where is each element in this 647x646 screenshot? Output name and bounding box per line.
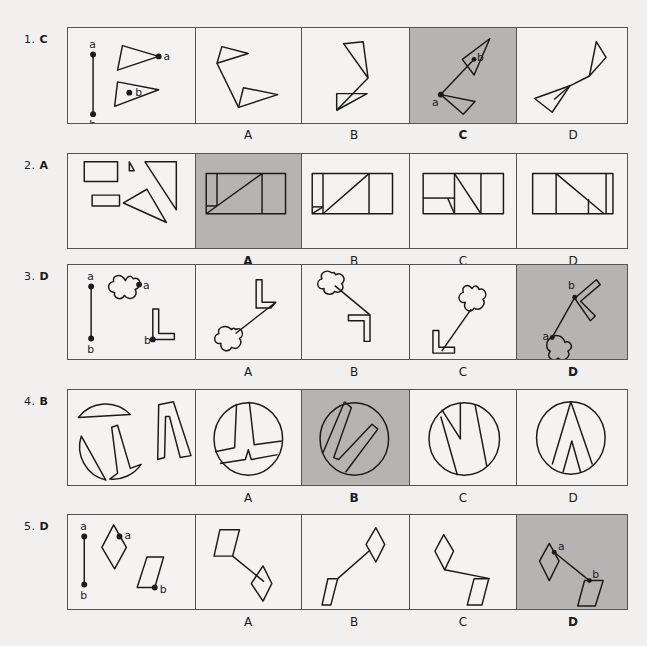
- option-figure-icon: b a: [517, 265, 627, 359]
- svg-text:b: b: [568, 279, 575, 292]
- option-b[interactable]: [302, 154, 410, 248]
- option-label-a[interactable]: A: [228, 615, 268, 629]
- question-2-row: [67, 153, 628, 249]
- option-label-c[interactable]: C: [443, 491, 483, 505]
- svg-text:b: b: [593, 568, 600, 581]
- option-figure-icon: [196, 515, 302, 609]
- question-number: 2.: [24, 159, 36, 172]
- svg-text:a: a: [164, 50, 171, 63]
- svg-text:b: b: [89, 118, 96, 123]
- option-figure-icon: [410, 265, 517, 359]
- question-2-prompt: [68, 154, 196, 248]
- option-a[interactable]: [196, 265, 303, 359]
- question-answer: D: [40, 520, 50, 533]
- question-answer: A: [40, 159, 49, 172]
- option-figure-icon: [302, 390, 409, 485]
- question-2-label: 2. A: [24, 159, 49, 172]
- option-label-d[interactable]: D: [553, 615, 593, 629]
- question-4-prompt: [68, 390, 196, 485]
- option-label-a[interactable]: A: [228, 491, 268, 505]
- svg-text:a: a: [87, 270, 94, 283]
- option-label-c[interactable]: C: [443, 615, 483, 629]
- option-figure-icon: [302, 265, 409, 359]
- question-answer: B: [40, 395, 49, 408]
- option-figure-icon: [196, 28, 302, 123]
- option-b[interactable]: [302, 515, 410, 609]
- option-label-c[interactable]: C: [443, 128, 483, 142]
- option-c[interactable]: [410, 154, 518, 248]
- option-b[interactable]: [302, 390, 410, 485]
- question-answer: D: [40, 270, 50, 283]
- question-5-label: 5. D: [24, 520, 49, 533]
- option-figure-icon: b a: [410, 28, 517, 123]
- question-answer: C: [40, 33, 49, 46]
- option-d[interactable]: [517, 154, 627, 248]
- question-3-row: a b a b: [67, 264, 628, 360]
- option-label-d[interactable]: D: [553, 365, 593, 379]
- question-5-row: a b a b: [67, 514, 628, 610]
- option-a[interactable]: [196, 154, 303, 248]
- option-figure-icon: [302, 515, 409, 609]
- question-4-label: 4. B: [24, 395, 48, 408]
- option-figure-icon: [410, 390, 517, 485]
- svg-text:a: a: [80, 520, 87, 533]
- question-number: 5.: [24, 520, 36, 533]
- option-figure-icon: a b: [517, 515, 627, 609]
- prompt-figure-icon: a b a b: [68, 265, 195, 359]
- option-label-b[interactable]: B: [334, 365, 374, 379]
- option-figure-icon: [196, 154, 302, 248]
- svg-text:a: a: [124, 529, 131, 542]
- option-figure-icon: [410, 515, 517, 609]
- option-figure-icon: [196, 265, 302, 359]
- prompt-figure-icon: a b a b: [68, 28, 195, 123]
- option-label-a[interactable]: A: [228, 365, 268, 379]
- option-c[interactable]: b a: [410, 28, 518, 123]
- option-label-b[interactable]: B: [334, 491, 374, 505]
- svg-text:a: a: [143, 279, 150, 292]
- option-c[interactable]: [410, 390, 518, 485]
- option-figure-icon: [302, 28, 409, 123]
- option-figure-icon: [196, 390, 302, 485]
- prompt-figure-icon: a b a b: [68, 515, 195, 609]
- question-number: 4.: [24, 395, 36, 408]
- option-d[interactable]: [517, 28, 627, 123]
- prompt-figure-icon: [68, 154, 195, 248]
- svg-text:b: b: [477, 51, 484, 64]
- option-figure-icon: [410, 154, 517, 248]
- option-a[interactable]: [196, 28, 303, 123]
- option-b[interactable]: [302, 28, 410, 123]
- question-1-row: a b a b b a: [67, 27, 628, 124]
- option-a[interactable]: [196, 390, 303, 485]
- option-b[interactable]: [302, 265, 410, 359]
- svg-text:b: b: [144, 334, 151, 347]
- option-figure-icon: [517, 28, 627, 123]
- question-3-label: 3. D: [24, 270, 49, 283]
- svg-text:a: a: [89, 38, 96, 51]
- option-figure-icon: [302, 154, 409, 248]
- svg-text:b: b: [160, 583, 167, 596]
- question-3-prompt: a b a b: [68, 265, 196, 359]
- option-label-d[interactable]: D: [553, 128, 593, 142]
- svg-text:b: b: [135, 86, 142, 99]
- option-label-d[interactable]: D: [553, 491, 593, 505]
- svg-text:b: b: [87, 343, 94, 356]
- question-number: 1.: [24, 33, 36, 46]
- question-1-prompt: a b a b: [68, 28, 196, 123]
- option-figure-icon: [517, 390, 627, 485]
- svg-text:b: b: [80, 589, 87, 602]
- question-5-prompt: a b a b: [68, 515, 196, 609]
- option-a[interactable]: [196, 515, 303, 609]
- question-1-label: 1. C: [24, 33, 48, 46]
- option-label-c[interactable]: C: [443, 365, 483, 379]
- option-c[interactable]: [410, 515, 518, 609]
- option-d[interactable]: [517, 390, 627, 485]
- option-label-a[interactable]: A: [228, 128, 268, 142]
- option-figure-icon: [517, 154, 627, 248]
- svg-text:a: a: [558, 540, 565, 553]
- option-d[interactable]: b a: [517, 265, 627, 359]
- option-d[interactable]: a b: [517, 515, 627, 609]
- option-c[interactable]: [410, 265, 518, 359]
- svg-text:a: a: [432, 96, 439, 109]
- option-label-b[interactable]: B: [334, 128, 374, 142]
- option-label-b[interactable]: B: [334, 615, 374, 629]
